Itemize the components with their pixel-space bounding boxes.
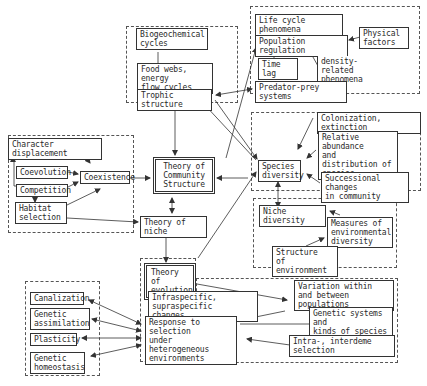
node-intra-interdeme-selection: Intra-, interdeme selection bbox=[289, 335, 395, 357]
node-population-regulation: Population regulation bbox=[255, 35, 348, 57]
node-coevolution: Coevolution bbox=[16, 166, 68, 179]
node-character-displacement: Character displacement bbox=[8, 138, 102, 160]
node-genetic-homeostasis: Genetic homeostasis bbox=[30, 352, 85, 374]
node-genetic-assimilation: Genetic assimilation bbox=[30, 308, 90, 330]
node-time-lag: Time lag bbox=[258, 58, 298, 80]
node-plasticity: Plasticity bbox=[30, 333, 77, 346]
node-theory-of-niche: Theory of niche bbox=[140, 216, 207, 238]
concept-map-canvas: Biogeochemical cycles Food webs, energy … bbox=[0, 0, 427, 386]
node-canalization: Canalization bbox=[30, 292, 84, 305]
node-trophic-structure: Trophic structure bbox=[137, 89, 212, 111]
node-niche-diversity: Niche diversity bbox=[259, 205, 326, 227]
node-response-to-selection: Response to selection under heterogeneou… bbox=[145, 316, 237, 365]
node-habitat-selection: Habitat selection bbox=[15, 202, 67, 224]
node-theory-of-community-structure: Theory of Community Structure bbox=[153, 157, 215, 194]
node-genetic-systems: Genetic systems and kinds of species bbox=[309, 307, 393, 338]
node-coexistence: Coexistence bbox=[80, 171, 130, 184]
node-life-cycle-phenomena: Life cycle phenomena bbox=[255, 14, 343, 36]
node-competition: Competition bbox=[16, 184, 68, 197]
node-structure-of-environment: Structure of environment bbox=[272, 246, 338, 277]
node-predator-prey: Predator-prey systems bbox=[255, 81, 347, 103]
node-measures-environmental-diversity: Measures of environmental diversity bbox=[327, 217, 393, 248]
node-biogeochemical-cycles: Biogeochemical cycles bbox=[136, 28, 208, 50]
node-physical-factors: Physical factors bbox=[359, 27, 409, 49]
node-species-diversity: Species diversity bbox=[258, 160, 301, 182]
node-successional-changes: Successional changes in community bbox=[321, 172, 409, 203]
